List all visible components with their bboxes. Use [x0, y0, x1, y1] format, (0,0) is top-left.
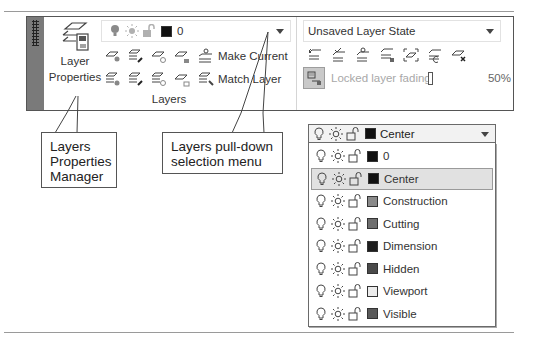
sun-thawed-icon — [329, 127, 343, 141]
lightbulb-on-icon — [108, 24, 122, 38]
lightbulb-icon — [314, 262, 328, 276]
chevron-down-icon[interactable] — [276, 29, 284, 34]
top-divider — [4, 11, 514, 12]
layer-properties-button[interactable]: Layer Properties — [47, 21, 103, 97]
unlocked-icon — [348, 149, 362, 163]
layer-off-icon — [104, 48, 122, 64]
layer-isolate-off-button[interactable] — [101, 46, 124, 66]
current-layer-value: 0 — [177, 25, 183, 37]
locked-layer-fading-toggle[interactable] — [303, 67, 325, 89]
callout-layers-pulldown: Layers pull-down selection menu — [162, 132, 283, 174]
lightbulb-icon — [312, 127, 326, 141]
layer-item-0[interactable]: 0 — [309, 145, 495, 168]
layer-thaw-icon — [150, 71, 168, 87]
previous-layer-button[interactable] — [303, 45, 327, 65]
isolate-to-viewport-button[interactable] — [399, 45, 423, 65]
callout-layers-properties-manager: Layers Properties Manager — [41, 132, 117, 188]
change-to-current-button[interactable] — [327, 45, 351, 65]
selected-layer-value: Center — [380, 128, 415, 140]
layer-isolate-button[interactable] — [124, 46, 147, 66]
layer-isolate-icon — [127, 48, 145, 64]
lightbulb-icon — [314, 239, 328, 253]
layer-state-tools — [303, 45, 471, 65]
layer-item-hidden[interactable]: Hidden — [309, 258, 495, 281]
layer-lock-button[interactable] — [170, 46, 193, 66]
copy-objects-to-layer-button[interactable] — [351, 45, 375, 65]
layer-color-swatch — [365, 128, 376, 139]
layer-color-swatch — [367, 218, 378, 229]
make-current-label: Make Current — [218, 50, 288, 62]
layer-tools-row-1: Make Current — [101, 45, 288, 67]
unlocked-icon — [348, 239, 362, 253]
layer-thaw-button[interactable] — [147, 69, 170, 89]
layers-ribbon-panel: Layer Properties 0 Make Current Match La… — [26, 16, 514, 111]
match-layer-label: Match Layer — [218, 73, 281, 85]
layer-unlock-button[interactable] — [170, 69, 193, 89]
unlocked-icon — [349, 172, 363, 186]
layer-color-swatch — [367, 196, 378, 207]
panel-title[interactable]: Layers — [44, 93, 294, 105]
layer-properties-label-2: Properties — [47, 69, 103, 85]
panel-grip-handle[interactable] — [27, 17, 44, 110]
match-layer-icon — [197, 71, 215, 87]
layer-walk-button[interactable] — [375, 45, 399, 65]
layer-item-dimension[interactable]: Dimension — [309, 235, 495, 258]
layer-color-swatch — [367, 263, 378, 274]
sun-thawed-icon — [331, 284, 345, 298]
lightbulb-icon — [314, 217, 328, 231]
layer-item-construction[interactable]: Construction — [309, 190, 495, 213]
unlocked-icon — [142, 24, 156, 38]
layer-delete-icon — [450, 47, 468, 63]
locked-layer-fading-label: Locked layer fading — [327, 72, 431, 84]
sun-thawed-icon — [331, 307, 345, 321]
current-layer-dropdown[interactable]: 0 — [101, 20, 291, 42]
layer-item-cutting[interactable]: Cutting — [309, 213, 495, 236]
layer-unisolate-button[interactable] — [124, 69, 147, 89]
layer-tools-row-2: Match Layer — [101, 68, 281, 90]
sun-thawed-icon — [125, 24, 139, 38]
layer-color-swatch — [161, 26, 172, 37]
layer-merge-icon — [426, 47, 444, 63]
unlocked-icon — [348, 262, 362, 276]
sun-thawed-icon — [332, 172, 346, 186]
layer-color-swatch — [367, 286, 378, 297]
layer-freeze-button[interactable] — [147, 46, 170, 66]
layer-previous-icon — [306, 47, 324, 63]
layer-item-viewport[interactable]: Viewport — [309, 280, 495, 303]
layer-on-button[interactable] — [101, 69, 124, 89]
layer-lock-icon — [173, 48, 191, 64]
locked-layer-fading-value: 50% — [488, 72, 511, 84]
unlocked-icon — [348, 284, 362, 298]
layer-state-dropdown[interactable]: Unsaved Layer State — [303, 20, 501, 42]
layer-dropdown-expanded-header[interactable]: Center — [308, 124, 496, 143]
locked-layer-fading-slider[interactable]: Locked layer fading 50% — [327, 67, 511, 89]
lightbulb-icon — [315, 172, 329, 186]
sun-thawed-icon — [331, 217, 345, 231]
merge-layer-button[interactable] — [423, 45, 447, 65]
unlocked-icon — [348, 194, 362, 208]
make-current-button[interactable]: Make Current — [197, 48, 288, 64]
layer-state-icons — [108, 24, 156, 38]
match-layer-button[interactable]: Match Layer — [197, 71, 281, 87]
locked-layer-fading-row: Locked layer fading 50% — [303, 67, 511, 89]
unlocked-icon — [348, 307, 362, 321]
slider-thumb[interactable] — [428, 72, 433, 85]
layer-properties-icon — [60, 21, 90, 53]
sun-thawed-icon — [331, 194, 345, 208]
lightbulb-icon — [314, 284, 328, 298]
layer-item-visible[interactable]: Visible — [309, 303, 495, 326]
layer-copy-icon — [354, 47, 372, 63]
lightbulb-icon — [314, 194, 328, 208]
chevron-down-icon[interactable] — [481, 132, 489, 137]
panel-separator — [296, 17, 297, 110]
delete-layer-button[interactable] — [447, 45, 471, 65]
layer-color-swatch — [367, 151, 378, 162]
unlocked-icon — [346, 127, 360, 141]
chevron-down-icon[interactable] — [486, 29, 494, 34]
layer-color-swatch — [367, 241, 378, 252]
layer-item-center[interactable]: Center — [311, 168, 493, 191]
layer-viewport-icon — [402, 47, 420, 63]
layer-dropdown-list: 0 Center Construction Cutting Dimension … — [308, 143, 496, 327]
layer-unlock-icon — [173, 71, 191, 87]
layer-on-icon — [104, 71, 122, 87]
